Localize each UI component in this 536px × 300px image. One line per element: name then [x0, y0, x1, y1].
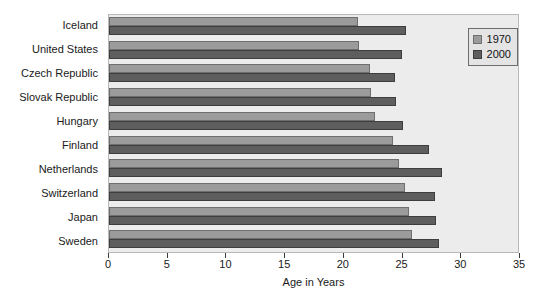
bar-1970-sweden: [109, 230, 412, 239]
legend-item-1970: 1970: [473, 32, 511, 47]
category-label: Slovak Republic: [0, 86, 104, 110]
bar-2000-sweden: [109, 239, 439, 248]
category-label: Finland: [0, 134, 104, 158]
bar-1970-japan: [109, 207, 409, 216]
bar-2000-slovak-republic: [109, 97, 396, 106]
bar-group: [109, 39, 518, 63]
x-axis-title: Age in Years: [108, 276, 519, 288]
chart-legend: 19702000: [468, 28, 518, 66]
x-tick-label: 20: [337, 259, 349, 270]
legend-item-2000: 2000: [473, 47, 511, 62]
x-tick-label: 15: [278, 259, 290, 270]
x-tick-label: 30: [454, 259, 466, 270]
x-tick-label: 25: [395, 259, 407, 270]
bar-1970-slovak-republic: [109, 88, 371, 97]
bar-2000-united-states: [109, 50, 402, 59]
bar-1970-netherlands: [109, 159, 399, 168]
bar-group: [109, 134, 518, 158]
plot-area: [108, 14, 519, 253]
bar-group: [109, 228, 518, 252]
bar-1970-iceland: [109, 17, 358, 26]
bar-1970-hungary: [109, 112, 375, 121]
category-label: Netherlands: [0, 157, 104, 181]
category-label: Japan: [0, 205, 104, 229]
category-axis: IcelandUnited StatesCzech RepublicSlovak…: [0, 14, 104, 253]
bar-2000-hungary: [109, 121, 403, 130]
bars-layer: [109, 15, 518, 252]
legend-label: 1970: [487, 34, 511, 45]
legend-label: 2000: [487, 49, 511, 60]
x-tick-label: 10: [219, 259, 231, 270]
bar-group: [109, 62, 518, 86]
bar-2000-netherlands: [109, 168, 442, 177]
bar-2000-finland: [109, 145, 429, 154]
category-label: United States: [0, 38, 104, 62]
bar-2000-czech-republic: [109, 73, 395, 82]
bar-group: [109, 205, 518, 229]
category-label: Switzerland: [0, 181, 104, 205]
bar-group: [109, 15, 518, 39]
bar-1970-czech-republic: [109, 64, 370, 73]
bar-1970-finland: [109, 136, 393, 145]
category-label: Hungary: [0, 110, 104, 134]
x-tick-label: 0: [105, 259, 111, 270]
bar-1970-switzerland: [109, 183, 405, 192]
bar-chart: IcelandUnited StatesCzech RepublicSlovak…: [0, 0, 536, 300]
bar-group: [109, 181, 518, 205]
category-label: Czech Republic: [0, 62, 104, 86]
legend-swatch-icon: [473, 50, 482, 59]
category-label: Iceland: [0, 14, 104, 38]
x-tick-label: 5: [164, 259, 170, 270]
legend-swatch-icon: [473, 35, 482, 44]
bar-group: [109, 110, 518, 134]
bar-2000-switzerland: [109, 192, 435, 201]
bar-group: [109, 157, 518, 181]
category-label: Sweden: [0, 229, 104, 253]
bar-1970-united-states: [109, 41, 359, 50]
bar-2000-japan: [109, 216, 436, 225]
bar-group: [109, 86, 518, 110]
bar-2000-iceland: [109, 26, 406, 35]
x-tick-label: 35: [513, 259, 525, 270]
